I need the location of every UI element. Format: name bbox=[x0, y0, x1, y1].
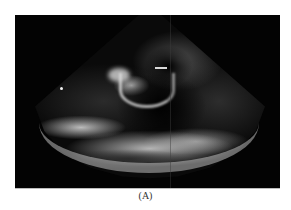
echo-speckle bbox=[155, 67, 167, 69]
figure-caption: (A) bbox=[0, 190, 291, 201]
figure: (A) bbox=[0, 0, 291, 210]
image-seam bbox=[170, 15, 171, 188]
orientation-marker bbox=[60, 87, 63, 90]
ultrasound-image bbox=[15, 15, 280, 189]
bright-echo-band bbox=[39, 123, 259, 173]
valve-curve-echo bbox=[119, 73, 175, 108]
